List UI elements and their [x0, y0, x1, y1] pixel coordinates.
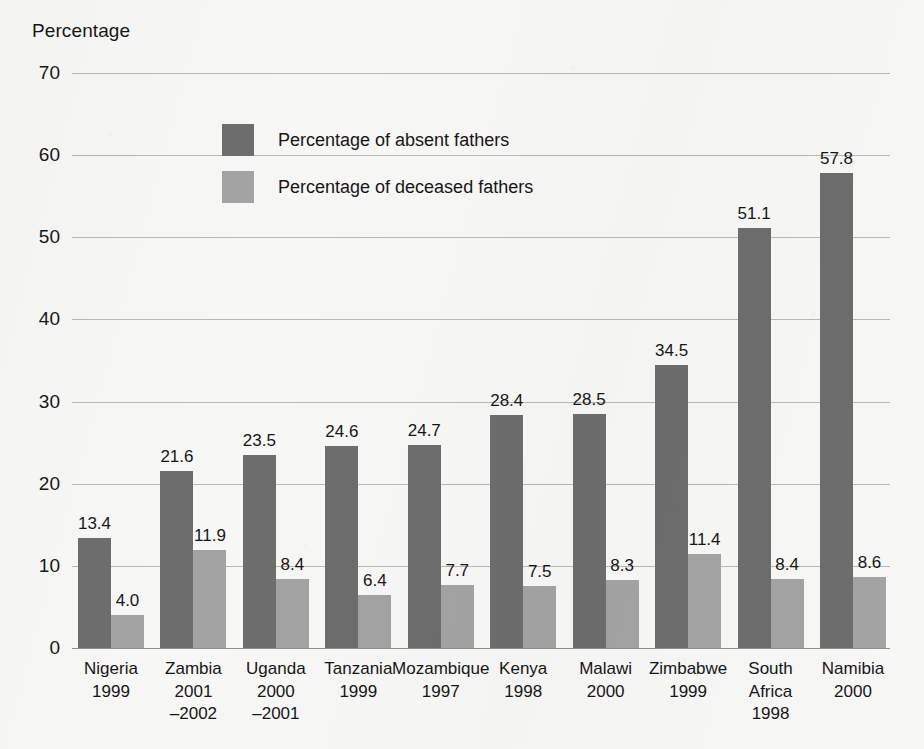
- bar-value-label: 8.6: [858, 553, 882, 573]
- bar-deceased: 8.4: [276, 579, 309, 648]
- bar-deceased: 11.4: [688, 554, 721, 648]
- y-tick-label-0: 0: [49, 637, 60, 659]
- legend-swatch-absent: [222, 124, 254, 156]
- y-tick-label-20: 20: [39, 473, 60, 495]
- bar-absent: 34.5: [655, 365, 688, 648]
- bar-deceased: 4.0: [111, 615, 144, 648]
- y-tick-label-10: 10: [39, 555, 60, 577]
- bar-value-label: 7.7: [445, 561, 469, 581]
- y-tick-label-50: 50: [39, 226, 60, 248]
- legend-label: Percentage of deceased fathers: [278, 177, 533, 198]
- bar-value-label: 57.8: [820, 149, 853, 169]
- bar-absent: 28.4: [490, 415, 523, 648]
- legend-item: Percentage of deceased fathers: [222, 171, 533, 203]
- bar-value-label: 28.5: [573, 390, 606, 410]
- bar-absent: 21.6: [160, 471, 193, 648]
- bar-group: 34.511.4: [655, 73, 721, 648]
- bar-value-label: 11.4: [689, 530, 721, 550]
- y-tick-label-60: 60: [39, 144, 60, 166]
- chart-legend: Percentage of absent fathersPercentage o…: [222, 124, 533, 218]
- bar-deceased: 8.3: [606, 580, 639, 648]
- x-axis-label-year: 2000: [793, 681, 913, 704]
- bar-value-label: 11.9: [194, 526, 226, 546]
- legend-swatch-deceased: [222, 171, 254, 203]
- legend-label: Percentage of absent fathers: [278, 130, 509, 151]
- bar-deceased: 7.5: [523, 586, 556, 648]
- bar-group: 13.44.0: [78, 73, 144, 648]
- bar-value-label: 34.5: [655, 341, 688, 361]
- bar-absent: 24.7: [408, 445, 441, 648]
- bar-deceased: 11.9: [193, 550, 226, 648]
- bar-absent: 23.5: [243, 455, 276, 648]
- bar-absent: 57.8: [820, 173, 853, 648]
- bar-deceased: 7.7: [441, 585, 474, 648]
- x-axis-label-name: Namibia: [793, 658, 913, 681]
- bar-absent: 24.6: [325, 446, 358, 648]
- bar-value-label: 28.4: [490, 391, 523, 411]
- bar-value-label: 8.3: [610, 556, 634, 576]
- y-axis-title: Percentage: [32, 20, 130, 42]
- gridline-0: 0: [72, 648, 890, 649]
- y-tick-label-30: 30: [39, 391, 60, 413]
- x-axis-labels: Nigeria1999Zambia2001–2002Uganda2000–200…: [72, 658, 890, 748]
- bar-group: 28.58.3: [573, 73, 639, 648]
- bar-group: 21.611.9: [160, 73, 226, 648]
- bar-deceased: 6.4: [358, 595, 391, 648]
- bar-value-label: 23.5: [243, 431, 276, 451]
- x-axis-label-year-2: –2001: [216, 703, 336, 726]
- bar-value-label: 13.4: [78, 514, 111, 534]
- bar-deceased: 8.6: [853, 577, 886, 648]
- bar-value-label: 8.4: [281, 555, 305, 575]
- bar-absent: 13.4: [78, 538, 111, 648]
- bar-value-label: 8.4: [775, 555, 799, 575]
- bar-value-label: 6.4: [363, 571, 387, 591]
- bar-absent: 28.5: [573, 414, 606, 648]
- legend-item: Percentage of absent fathers: [222, 124, 533, 156]
- y-tick-label-40: 40: [39, 308, 60, 330]
- y-tick-label-70: 70: [39, 62, 60, 84]
- bar-value-label: 7.5: [528, 562, 552, 582]
- bar-absent: 51.1: [738, 228, 771, 648]
- bar-group: 51.18.4: [738, 73, 804, 648]
- x-axis-label-year-2: 1998: [711, 703, 831, 726]
- x-axis-label: Namibia2000: [793, 658, 913, 703]
- bar-value-label: 4.0: [116, 591, 140, 611]
- bar-value-label: 51.1: [738, 204, 771, 224]
- bar-value-label: 24.7: [408, 421, 441, 441]
- bar-chart: Percentage 010203040506070 13.44.021.611…: [0, 0, 924, 749]
- bar-group: 57.88.6: [820, 73, 886, 648]
- bar-deceased: 8.4: [771, 579, 804, 648]
- bar-value-label: 24.6: [325, 422, 358, 442]
- bar-value-label: 21.6: [160, 447, 193, 467]
